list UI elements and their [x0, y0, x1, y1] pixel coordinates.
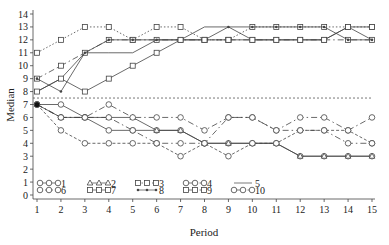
- circle-marker-icon: [250, 115, 256, 121]
- circle-marker-icon: [82, 140, 88, 146]
- series-4: [34, 102, 375, 146]
- circle-marker-icon: [273, 128, 279, 134]
- square-marker-icon: [154, 24, 159, 29]
- legend-item-10: 10: [231, 185, 265, 196]
- circle-marker-icon: [297, 128, 303, 134]
- circle-marker-icon: [202, 140, 208, 146]
- circle-marker-icon: [321, 128, 327, 134]
- circle-marker-icon: [82, 115, 88, 121]
- legend-label: 6: [61, 185, 66, 196]
- series-line: [37, 27, 372, 92]
- y-tick-label: 10: [18, 60, 28, 71]
- y-tick-label: 11: [18, 47, 28, 58]
- square-marker-icon: [106, 24, 111, 29]
- y-tick-label: 7: [23, 99, 28, 110]
- triangle-marker-icon: [96, 180, 102, 185]
- circle-marker-icon: [202, 128, 208, 134]
- series-line: [37, 27, 372, 92]
- circle-marker-icon: [192, 180, 198, 186]
- y-tick-label: 8: [23, 86, 28, 97]
- circle-marker-icon: [58, 115, 64, 121]
- y-tick-label: 9: [23, 73, 28, 84]
- square-marker-icon: [130, 63, 135, 68]
- series-line: [37, 27, 372, 92]
- square-marker-icon: [82, 89, 87, 94]
- triangle-marker-icon: [105, 180, 111, 185]
- median-by-period-chart: 0123456789101112131412345678910111213141…: [0, 0, 389, 245]
- circle-marker-icon: [297, 115, 303, 121]
- dot-marker-icon: [323, 26, 326, 29]
- legend-item-8: 8: [137, 185, 164, 196]
- square-marker-icon: [322, 37, 327, 42]
- circle-marker-icon: [106, 128, 112, 134]
- legend-item-9: 9: [184, 185, 213, 196]
- dot-marker-icon: [84, 51, 87, 54]
- x-tick-label: 15: [367, 204, 377, 215]
- series-9: [35, 37, 375, 81]
- legend-label: 8: [159, 185, 164, 196]
- circle-marker-icon: [37, 187, 43, 193]
- circle-marker-icon: [240, 187, 246, 193]
- square-marker-icon: [298, 37, 303, 42]
- circle-marker-icon: [178, 115, 184, 121]
- dot-marker-icon: [371, 39, 374, 42]
- x-tick-label: 14: [343, 204, 353, 215]
- dot-marker-icon: [299, 26, 302, 29]
- circle-marker-icon: [55, 187, 61, 193]
- circle-marker-icon: [226, 153, 232, 159]
- square-marker-icon: [58, 76, 63, 81]
- dot-marker-icon: [60, 90, 63, 93]
- dot-marker-icon: [155, 189, 158, 192]
- circle-marker-icon: [369, 140, 375, 146]
- circle-marker-icon: [154, 140, 160, 146]
- square-marker-icon: [154, 50, 159, 55]
- circle-marker-icon: [249, 187, 255, 193]
- square-marker-icon: [274, 37, 279, 42]
- x-tick-label: 13: [319, 204, 329, 215]
- x-tick-label: 3: [82, 204, 87, 215]
- square-marker-icon: [154, 181, 159, 186]
- dot-marker-icon: [275, 26, 278, 29]
- square-marker-icon: [97, 188, 102, 193]
- y-tick-label: 0: [23, 190, 28, 201]
- square-marker-icon: [202, 188, 207, 193]
- circle-marker-icon: [273, 140, 279, 146]
- square-marker-icon: [58, 37, 63, 42]
- x-tick-label: 4: [106, 204, 111, 215]
- circle-marker-icon: [46, 180, 52, 186]
- y-tick-label: 2: [23, 164, 28, 175]
- circle-marker-icon: [106, 115, 112, 121]
- y-tick-label: 3: [23, 151, 28, 162]
- y-tick-label: 5: [23, 125, 28, 136]
- square-marker-icon: [250, 37, 255, 42]
- square-marker-icon: [106, 188, 111, 193]
- series-line: [37, 105, 372, 144]
- dot-marker-icon: [251, 26, 254, 29]
- legend: 16273849510: [37, 178, 265, 196]
- x-tick-label: 10: [247, 204, 257, 215]
- circle-marker-icon: [201, 180, 207, 186]
- chart-canvas: 0123456789101112131412345678910111213141…: [0, 0, 389, 245]
- x-tick-label: 8: [202, 204, 207, 215]
- circle-marker-icon: [130, 115, 136, 121]
- dot-marker-icon: [227, 26, 230, 29]
- legend-item-7: 7: [88, 185, 117, 196]
- circle-marker-icon: [130, 140, 136, 146]
- legend-item-6: 6: [37, 185, 66, 196]
- circle-marker-icon: [58, 102, 64, 108]
- legend-label: 9: [207, 185, 212, 196]
- square-marker-icon: [106, 76, 111, 81]
- square-marker-icon: [58, 63, 63, 68]
- square-marker-icon: [202, 37, 207, 42]
- dot-marker-icon: [146, 189, 149, 192]
- square-marker-icon: [226, 37, 231, 42]
- circle-marker-icon: [178, 153, 184, 159]
- start-point-marker-icon: [34, 102, 39, 107]
- x-tick-label: 6: [154, 204, 159, 215]
- y-tick-label: 1: [23, 177, 28, 188]
- circle-marker-icon: [154, 115, 160, 121]
- y-axis-label: Median: [4, 88, 16, 122]
- square-marker-icon: [136, 181, 141, 186]
- y-tick-label: 4: [23, 138, 28, 149]
- circle-marker-icon: [46, 187, 52, 193]
